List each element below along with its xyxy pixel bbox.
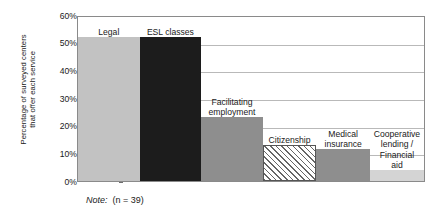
bar-label: Citizenship [263,135,317,145]
bar-group[interactable]: Cooperative lending / Financial aid [370,17,424,181]
chart-note: Note:(n = 39) [86,195,144,206]
bar[interactable] [316,149,370,181]
bar-series: LegalESL classesFacilitating employmentC… [78,17,424,181]
note-prefix: Note: [86,195,108,205]
note-value: (n = 39) [113,195,144,205]
bar-group[interactable]: Legal [78,17,140,181]
y-axis-tick-labels: 60%50%40%30%20%10%0% [46,0,77,218]
plot-area: LegalESL classesFacilitating employmentC… [77,16,425,182]
y-tick-label: 50% [60,39,77,48]
bar[interactable] [370,170,424,181]
bar-label: Medical insurance [316,129,370,149]
bar-label: Legal [78,27,140,37]
bar-group[interactable]: Facilitating employment [201,17,263,181]
y-tick-label: 10% [60,150,77,159]
bar-group[interactable]: Citizenship [263,17,317,181]
y-tick-mark [119,182,123,183]
y-tick-label: 0% [65,178,77,187]
y-tick-label: 30% [60,95,77,104]
bar-chart-figure: Percentage of surveyed centers that offe… [0,0,436,218]
bar[interactable] [201,117,263,181]
bar[interactable] [263,145,317,181]
bar-group[interactable]: Medical insurance [316,17,370,181]
bar[interactable] [140,37,202,181]
bar-label: ESL classes [140,27,202,37]
bar-group[interactable]: ESL classes [140,17,202,181]
bar-label: Facilitating employment [201,97,263,117]
y-axis-title: Percentage of surveyed centers that offe… [19,4,38,174]
y-tick-label: 20% [60,122,77,131]
bar[interactable] [78,37,140,181]
y-tick-label: 60% [60,12,77,21]
y-tick-label: 40% [60,67,77,76]
bar-label: Cooperative lending / Financial aid [370,129,424,170]
